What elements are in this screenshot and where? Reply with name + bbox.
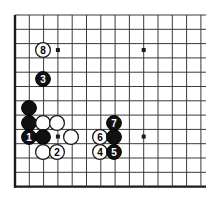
stone-move-2[interactable] [50, 145, 65, 160]
stone-move-3[interactable] [36, 72, 51, 87]
stone-move-8[interactable] [36, 43, 51, 58]
stone-black-d[interactable] [107, 130, 122, 145]
stone-move-5[interactable] [107, 145, 122, 160]
stone-move-1[interactable] [22, 130, 37, 145]
stone-white-a[interactable] [36, 116, 51, 131]
stone-black-c[interactable] [36, 130, 51, 145]
star-point-lower-left [56, 135, 60, 139]
star-point-center [142, 135, 146, 139]
go-board-grid [0, 0, 208, 208]
stone-move-6[interactable] [93, 130, 108, 145]
stone-black-a[interactable] [22, 101, 37, 116]
stone-white-d[interactable] [36, 145, 51, 160]
stone-move-7[interactable] [107, 116, 122, 131]
stone-move-4[interactable] [93, 145, 108, 160]
star-point-right [142, 48, 146, 52]
stone-white-b[interactable] [50, 116, 65, 131]
stone-black-b[interactable] [22, 116, 37, 131]
star-point-left [56, 48, 60, 52]
go-board-diagram: 83127645 [0, 0, 208, 208]
stone-white-c[interactable] [64, 130, 79, 145]
